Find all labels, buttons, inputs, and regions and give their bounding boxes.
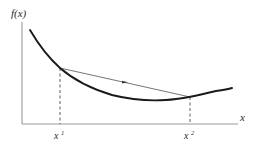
tick-label-x1-base: x [53, 130, 59, 141]
convex-function-curve [30, 30, 232, 100]
figure-canvas: f(x) x x 1 x 2 [0, 0, 257, 150]
tick-label-x1-superscript: 1 [61, 129, 64, 136]
tick-label-x2-base: x [183, 130, 189, 141]
tick-label-x2-superscript: 2 [191, 129, 195, 136]
tick-label-x1: x 1 [53, 129, 64, 142]
x-axis-label: x [239, 111, 245, 123]
y-axis-label: f(x) [11, 7, 27, 20]
convex-function-figure: f(x) x x 1 x 2 [0, 0, 257, 150]
tick-label-x2: x 2 [183, 129, 195, 142]
